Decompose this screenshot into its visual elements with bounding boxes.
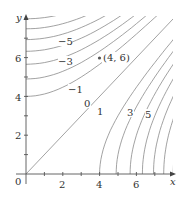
level-labels: −5 −3 −1 0 1 3 5 [58,36,152,120]
level-label-1: 1 [97,106,103,117]
x-axis-label: x [170,176,176,187]
y-tick-label-2: 2 [15,130,21,141]
contour-line [26,0,189,51]
contour-line [26,0,189,19]
level-label-minus-3: −3 [58,56,73,67]
contour-line [26,0,189,40]
contour-line [130,0,189,174]
contour-lines [26,0,189,174]
marked-point-label: (4, 6) [103,52,130,63]
level-label-5: 5 [145,109,151,120]
y-tick-label-6: 6 [15,53,21,64]
level-label-3: 3 [127,107,133,118]
contour-line [182,0,189,174]
y-tick-label-4: 4 [15,92,21,103]
contour-line [26,0,189,79]
y-axis-label: y [15,12,22,23]
x-tick-label-4: 4 [96,179,102,190]
contour-line [116,0,189,174]
contour-line [26,0,189,174]
x-tick-label-2: 2 [59,179,65,190]
level-label-minus-5: −5 [58,36,73,47]
y-axis-arrow-icon [24,14,29,20]
contour-line [173,0,189,174]
contour-plot: x y 0 2 4 6 2 4 6 −5 −3 −1 0 1 3 5 (4, 6… [0,0,189,198]
contour-line [100,0,189,174]
x-tick-label-6: 6 [133,179,139,190]
level-label-0: 0 [84,98,90,109]
level-label-minus-1: −1 [68,84,83,95]
origin-label: 0 [15,176,21,187]
axes [16,19,172,184]
marked-point-dot [98,56,101,59]
contour-line [164,0,189,174]
